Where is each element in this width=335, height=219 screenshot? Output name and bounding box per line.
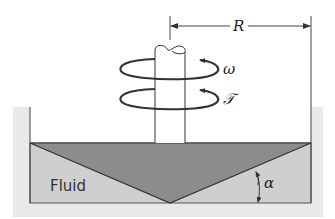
radius-label: R (232, 17, 244, 35)
omega-label: ω (223, 60, 235, 78)
cone-plate-viscometer-diagram: ω 𝒯 R α Fluid (0, 0, 335, 219)
shaft (155, 45, 185, 143)
torque-label: 𝒯 (223, 90, 239, 108)
fluid-label: Fluid (50, 177, 86, 195)
alpha-label: α (264, 174, 274, 192)
